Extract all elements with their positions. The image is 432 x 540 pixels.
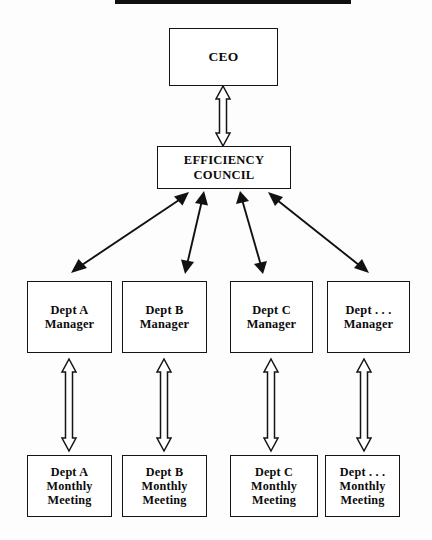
node-dept-a-monthly-meeting[interactable]: Dept A Monthly Meeting (27, 455, 112, 517)
connector-manager-c-meeting-c-icon (264, 359, 278, 451)
node-ceo-label: CEO (209, 49, 239, 65)
node-dept-a-manager[interactable]: Dept A Manager (27, 281, 112, 353)
top-rule-divider (115, 0, 351, 4)
connector-manager-b-meeting-b-icon (157, 359, 171, 451)
connector-manager-a-meeting-a-icon (62, 359, 76, 451)
node-dept-other-monthly-meeting-label: Dept . . . Monthly Meeting (339, 465, 385, 507)
node-dept-b-monthly-meeting[interactable]: Dept B Monthly Meeting (122, 455, 207, 517)
connector-council-manager-c-icon (236, 191, 267, 274)
node-efficiency-council[interactable]: EFFICIENCY COUNCIL (157, 146, 291, 189)
connector-council-manager-d-icon (268, 192, 369, 273)
node-ceo[interactable]: CEO (169, 28, 278, 86)
node-dept-other-manager[interactable]: Dept . . . Manager (327, 281, 410, 353)
node-dept-b-manager[interactable]: Dept B Manager (122, 281, 207, 353)
connector-council-manager-a-icon (71, 192, 189, 273)
connector-council-manager-b-icon (181, 191, 208, 274)
node-dept-b-manager-label: Dept B Manager (140, 303, 190, 332)
node-dept-c-monthly-meeting[interactable]: Dept C Monthly Meeting (230, 455, 318, 517)
node-dept-c-manager-label: Dept C Manager (247, 303, 297, 332)
node-dept-c-monthly-meeting-label: Dept C Monthly Meeting (251, 465, 297, 507)
node-dept-c-manager[interactable]: Dept C Manager (230, 281, 313, 353)
node-dept-other-monthly-meeting[interactable]: Dept . . . Monthly Meeting (325, 455, 400, 517)
connector-manager-d-meeting-d-icon (357, 359, 371, 451)
node-dept-a-manager-label: Dept A Manager (45, 303, 95, 332)
node-efficiency-council-label: EFFICIENCY COUNCIL (184, 153, 264, 182)
org-chart-diagram: CEO EFFICIENCY COUNCIL Dept A Manager De… (0, 0, 432, 540)
node-dept-other-manager-label: Dept . . . Manager (344, 303, 394, 332)
connector-ceo-council-icon (216, 86, 230, 146)
node-dept-b-monthly-meeting-label: Dept B Monthly Meeting (141, 465, 187, 507)
node-dept-a-monthly-meeting-label: Dept A Monthly Meeting (46, 465, 92, 507)
